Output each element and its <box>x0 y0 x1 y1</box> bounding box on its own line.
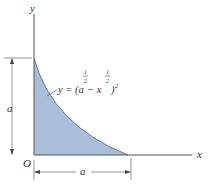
svg-text:− x: − x <box>87 84 102 95</box>
origin-label: O <box>23 157 31 169</box>
svg-text:2: 2 <box>106 78 109 84</box>
shaded-area <box>34 58 128 155</box>
svg-text:2: 2 <box>115 82 119 89</box>
svg-text:y = (a: y = (a <box>57 84 84 96</box>
curve-equation: y = (a 1 2 − x 1 2 ) 2 <box>57 69 119 96</box>
arrow-down-icon <box>10 149 14 155</box>
dim-vertical-label: a <box>7 102 13 114</box>
dim-horizontal-label: a <box>80 165 86 177</box>
y-axis-label: y <box>29 2 35 14</box>
svg-text:1: 1 <box>84 69 87 75</box>
x-axis-label: x <box>196 148 202 160</box>
svg-text:1: 1 <box>106 69 109 75</box>
arrow-right-icon <box>125 170 131 174</box>
arrow-left-icon <box>34 170 40 174</box>
arrow-up-icon <box>10 58 14 64</box>
area-diagram: y x O a a y = (a 1 2 − x 1 2 ) 2 <box>0 0 210 192</box>
